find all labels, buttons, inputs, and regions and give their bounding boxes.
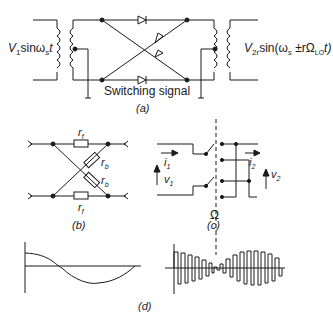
switching-signal-label: Switching signal [104, 84, 190, 98]
caption-c: (c) [207, 219, 220, 231]
rf-top-sub: f [82, 133, 84, 140]
output-signal-label: V2rsin(ωs ±rΩLOt) [244, 41, 331, 57]
caption-b: (b) [72, 219, 85, 231]
v2-label: v2 [271, 168, 280, 182]
panel-d-waveforms [25, 242, 285, 294]
input-signal-label: V1sinωst [8, 41, 53, 57]
i1-sub: 1 [166, 163, 170, 170]
rf-top-label: rf [78, 126, 84, 140]
caption-d: (d) [138, 300, 151, 312]
output-LO-sub: LO [315, 49, 324, 56]
v2-sub: 2 [277, 175, 281, 182]
v1-sub: 1 [170, 180, 174, 187]
output-V: V [244, 41, 252, 55]
i2-sub: 2 [251, 163, 255, 170]
output-t: t) [324, 41, 331, 55]
rf-bottom-label: rf [78, 201, 84, 215]
rb-lower-sub: b [105, 181, 109, 188]
output-sin: sin(ω [259, 41, 288, 55]
rf-bottom-sub: f [82, 208, 84, 215]
i1-label: i1 [164, 156, 170, 170]
panel-b-circuit [28, 140, 128, 199]
rb-upper-sub: b [105, 163, 109, 170]
input-t: t [49, 41, 52, 55]
v1-label: v1 [164, 173, 173, 187]
i2-label: i2 [249, 156, 255, 170]
rb-upper-label: rb [101, 156, 109, 170]
rb-lower-label: rb [101, 174, 109, 188]
caption-a: (a) [136, 102, 149, 114]
input-sin: sinω [20, 41, 45, 55]
output-rOmega: ±rΩ [292, 41, 315, 55]
input-V: V [8, 41, 16, 55]
